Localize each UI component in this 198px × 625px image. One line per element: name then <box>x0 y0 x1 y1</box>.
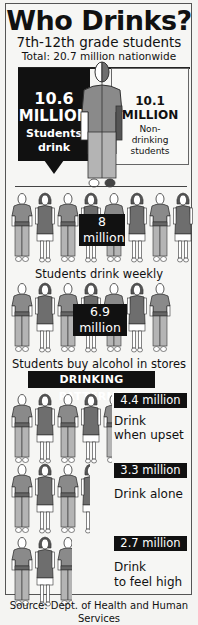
chart-title: Who Drinks? <box>0 6 198 36</box>
girl-figure-icon <box>172 192 194 264</box>
girl-figure-icon <box>34 463 56 535</box>
boy-figure-icon <box>11 536 33 608</box>
boy-figure-icon <box>11 463 33 535</box>
weekly-drinkers-badge: 8 million <box>79 214 125 246</box>
when-upset-label-2: when upset <box>114 428 184 443</box>
boy-figure-icon <box>57 463 79 535</box>
store-buyers-badge: 6.9 million <box>73 304 127 336</box>
partial-girl-figure-icon <box>80 463 90 535</box>
alone-pictogram <box>11 463 90 539</box>
boy-figure-icon <box>11 393 33 465</box>
callout-pointer <box>44 160 64 174</box>
chart-subtitle: 7th-12th grade students <box>0 35 198 50</box>
when-upset-label-1: Drink <box>114 414 146 429</box>
boy-figure-icon <box>57 393 79 465</box>
when-upset-pictogram <box>11 393 112 469</box>
girl-figure-icon <box>34 536 56 608</box>
feel-high-label-1: Drink <box>114 560 146 575</box>
boy-figure-icon <box>149 282 171 354</box>
boy-figure-icon <box>11 282 33 354</box>
feel-high-label-2: to feel high <box>114 575 182 590</box>
partial-boy-figure-icon <box>103 393 112 465</box>
girl-figure-icon <box>34 393 56 465</box>
partial-boy-figure-icon <box>57 536 72 608</box>
girl-figure-icon <box>34 192 56 264</box>
section-divider <box>15 186 187 187</box>
girl-figure-icon <box>126 192 148 264</box>
boy-figure-icon <box>149 192 171 264</box>
feel-high-badge: 2.7 million <box>114 536 187 551</box>
weekly-drinkers-caption: Students drink weekly <box>0 267 198 281</box>
store-buyers-caption: Students buy alcohol in stores <box>0 357 198 371</box>
boy-figure-icon <box>11 192 33 264</box>
alone-label: Drink alone <box>114 487 183 502</box>
central-student-figure-icon <box>78 60 126 188</box>
girl-figure-icon <box>34 282 56 354</box>
source-note: Source: Dept. of Health and Human Servic… <box>0 599 198 625</box>
boy-figure-icon <box>57 192 79 264</box>
alone-badge: 3.3 million <box>114 463 187 478</box>
drinking-patterns-heading: DRINKING PATTERNS <box>28 371 155 388</box>
when-upset-badge: 4.4 million <box>114 393 187 408</box>
girl-figure-icon <box>80 393 102 465</box>
girl-figure-icon <box>126 282 148 354</box>
